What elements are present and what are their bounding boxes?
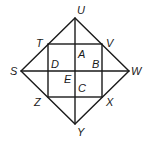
label-z: Z (33, 96, 42, 108)
label-w: W (131, 65, 143, 77)
geometry-diagram: U V W X Y Z S T A B C D E (0, 0, 152, 145)
label-s: S (10, 65, 18, 77)
label-d: D (51, 58, 59, 70)
diagonals (21, 18, 129, 124)
label-v: V (106, 37, 115, 49)
label-u: U (77, 4, 85, 16)
label-b: B (92, 58, 99, 70)
label-t: T (36, 37, 44, 49)
label-x: X (105, 96, 114, 108)
label-e: E (64, 73, 72, 85)
label-c: C (78, 82, 86, 94)
label-y: Y (77, 126, 85, 138)
label-a: A (77, 48, 85, 60)
